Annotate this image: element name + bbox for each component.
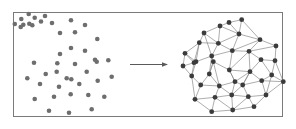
- graph-node: [246, 94, 251, 99]
- cloud-point: [73, 62, 78, 67]
- graph-node: [209, 54, 214, 59]
- graph-node: [198, 83, 203, 88]
- graph-node: [252, 104, 257, 109]
- graph-node: [197, 40, 202, 45]
- graph-node: [230, 48, 235, 53]
- graph-node: [218, 24, 223, 29]
- graph-node: [237, 32, 242, 37]
- graph-node: [183, 51, 188, 56]
- figure-root: [0, 0, 296, 129]
- graph-node: [216, 41, 221, 46]
- cloud-point: [39, 19, 44, 24]
- graph-node: [207, 72, 212, 77]
- cloud-point: [69, 77, 74, 82]
- graph-node: [189, 74, 194, 79]
- cloud-point: [89, 107, 94, 112]
- graph-node: [229, 93, 234, 98]
- cloud-point: [38, 82, 43, 87]
- cloud-point: [95, 78, 100, 83]
- cloud-point: [32, 60, 37, 65]
- cloud-point: [54, 69, 59, 74]
- graph-node: [192, 60, 197, 65]
- figure-svg: [0, 0, 296, 129]
- cloud-point: [77, 82, 82, 87]
- cloud-point: [13, 22, 18, 27]
- cloud-point: [64, 76, 69, 81]
- cloud-point: [84, 69, 89, 74]
- cloud-point: [83, 23, 88, 28]
- cloud-point: [30, 23, 35, 28]
- cloud-point: [69, 46, 74, 51]
- cloud-point: [43, 72, 48, 77]
- cloud-point: [67, 110, 72, 115]
- cloud-point: [25, 76, 30, 81]
- graph-node: [211, 59, 216, 64]
- cloud-point: [68, 92, 73, 97]
- cloud-point: [47, 108, 52, 113]
- cloud-point: [43, 14, 48, 19]
- cloud-point: [52, 94, 57, 99]
- cloud-point: [26, 12, 31, 17]
- graph-node: [230, 108, 235, 113]
- cloud-point: [86, 93, 91, 98]
- graph-node: [239, 17, 244, 22]
- cloud-point: [94, 59, 99, 64]
- cloud-point: [83, 48, 88, 53]
- graph-node: [259, 57, 264, 62]
- cloud-point: [109, 74, 114, 79]
- graph-node: [273, 58, 278, 63]
- cloud-point: [58, 52, 63, 57]
- graph-node: [213, 95, 218, 100]
- cloud-point: [95, 37, 100, 42]
- cloud-point: [32, 97, 37, 102]
- graph-node: [217, 84, 222, 89]
- graph-node: [264, 93, 269, 98]
- graph-node: [259, 78, 264, 83]
- graph-node: [248, 69, 253, 74]
- cloud-point: [69, 18, 74, 23]
- cloud-point: [106, 58, 111, 63]
- graph-node: [227, 20, 232, 25]
- cloud-point: [50, 21, 55, 26]
- cloud-point: [102, 94, 107, 99]
- graph-node: [181, 64, 186, 69]
- cloud-point: [73, 30, 78, 35]
- graph-node: [209, 109, 214, 114]
- graph-node: [258, 37, 263, 42]
- graph-node: [269, 73, 274, 78]
- graph-node: [281, 79, 286, 84]
- graph-node: [274, 44, 279, 49]
- graph-node: [247, 49, 252, 54]
- graph-node: [193, 97, 198, 102]
- cloud-point: [55, 61, 60, 66]
- graph-node: [202, 31, 207, 36]
- graph-node: [240, 83, 245, 88]
- graph-node: [233, 79, 238, 84]
- cloud-point: [18, 25, 23, 30]
- cloud-point: [58, 31, 63, 36]
- cloud-point: [57, 84, 62, 89]
- cloud-point: [19, 17, 24, 22]
- cloud-point: [32, 15, 37, 20]
- graph-node: [227, 68, 232, 73]
